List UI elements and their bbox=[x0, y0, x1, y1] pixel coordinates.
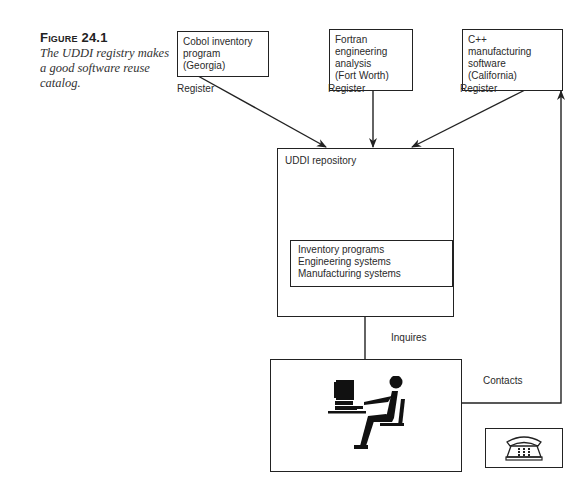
source-text-cobol: Cobol inventory program (Georgia) bbox=[183, 36, 263, 72]
source-box-fortran: Fortran engineering analysis (Fort Worth… bbox=[329, 29, 413, 91]
category-list-box: Inventory programs Engineering systems M… bbox=[290, 240, 453, 287]
register-label-fortran: Register bbox=[328, 83, 365, 94]
category-manufacturing: Manufacturing systems bbox=[298, 268, 445, 280]
source-box-cobol: Cobol inventory program (Georgia) bbox=[177, 31, 269, 77]
telephone-icon bbox=[504, 434, 544, 462]
register-label-cpp: Register bbox=[460, 83, 497, 94]
contacts-label: Contacts bbox=[483, 375, 522, 386]
source-box-cpp: C++ manufacturing software (California) bbox=[462, 29, 563, 91]
uddi-repository-box: UDDI repository Inventory programs Engin… bbox=[277, 148, 454, 317]
source-text-fortran: Fortran engineering analysis (Fort Worth… bbox=[335, 34, 407, 82]
category-inventory: Inventory programs bbox=[298, 244, 445, 256]
contacts-arrow bbox=[461, 91, 561, 403]
category-engineering: Engineering systems bbox=[298, 256, 445, 268]
register-arrow-cpp bbox=[412, 90, 525, 147]
phone-box bbox=[485, 428, 563, 468]
register-arrow-cobol bbox=[198, 76, 326, 147]
user-box bbox=[270, 359, 462, 472]
inquires-label: Inquires bbox=[391, 332, 427, 343]
repository-title: UDDI repository bbox=[285, 155, 356, 167]
person-at-computer-icon bbox=[328, 376, 428, 456]
source-text-cpp: C++ manufacturing software (California) bbox=[468, 34, 557, 82]
register-label-cobol: Register bbox=[177, 83, 214, 94]
